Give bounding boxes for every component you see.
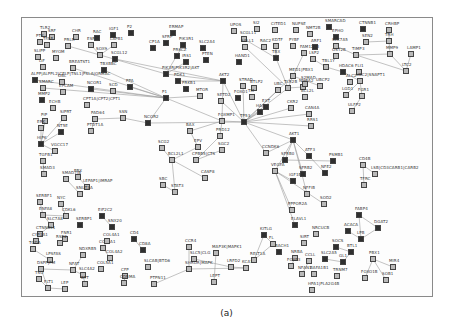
gene-node[interactable]: [317, 83, 323, 89]
gene-node[interactable]: [236, 59, 242, 65]
gene-node[interactable]: [197, 93, 203, 99]
gene-node[interactable]: [334, 273, 340, 279]
gene-node[interactable]: [202, 175, 208, 181]
gene-node[interactable]: [211, 279, 217, 285]
gene-node[interactable]: [290, 43, 296, 49]
gene-node[interactable]: [360, 26, 366, 32]
gene-node[interactable]: [306, 258, 312, 264]
gene-node[interactable]: [213, 250, 219, 256]
gene-node[interactable]: [45, 285, 51, 291]
gene-node[interactable]: [63, 176, 69, 182]
gene-node[interactable]: [408, 51, 414, 57]
gene-node[interactable]: [110, 88, 116, 94]
gene-node[interactable]: [38, 141, 44, 147]
gene-node[interactable]: [311, 271, 317, 277]
gene-node[interactable]: [302, 94, 308, 100]
gene-node[interactable]: [353, 52, 359, 58]
gene-node[interactable]: [272, 168, 278, 174]
gene-node[interactable]: [383, 277, 389, 283]
gene-node[interactable]: [218, 98, 224, 104]
gene-node[interactable]: [228, 264, 234, 270]
gene-node[interactable]: [220, 78, 226, 84]
gene-node[interactable]: [356, 212, 362, 218]
gene-node[interactable]: [32, 77, 38, 83]
gene-node[interactable]: [322, 170, 328, 176]
gene-node[interactable]: [145, 120, 151, 126]
gene-node[interactable]: [151, 281, 157, 287]
gene-node[interactable]: [77, 222, 83, 228]
gene-node[interactable]: [357, 78, 363, 84]
gene-node[interactable]: [231, 28, 237, 34]
gene-node[interactable]: [131, 236, 137, 242]
gene-node[interactable]: [309, 287, 315, 293]
gene-node[interactable]: [302, 81, 308, 87]
gene-node[interactable]: [58, 129, 64, 135]
gene-node[interactable]: [273, 55, 279, 61]
gene-node[interactable]: [375, 225, 381, 231]
gene-node[interactable]: [306, 153, 312, 159]
gene-node[interactable]: [243, 265, 249, 271]
gene-node[interactable]: [172, 189, 178, 195]
gene-node[interactable]: [163, 40, 169, 46]
gene-node[interactable]: [349, 108, 355, 114]
gene-node[interactable]: [359, 93, 365, 99]
gene-node[interactable]: [345, 228, 351, 234]
gene-node[interactable]: [40, 64, 46, 70]
gene-node[interactable]: [290, 137, 296, 143]
gene-node[interactable]: [370, 256, 376, 262]
gene-node[interactable]: [169, 157, 175, 163]
gene-node[interactable]: [363, 39, 369, 45]
gene-node[interactable]: [289, 207, 295, 213]
gene-node[interactable]: [362, 275, 368, 281]
gene-node[interactable]: [159, 145, 165, 151]
gene-node[interactable]: [293, 27, 299, 33]
gene-node[interactable]: [249, 94, 255, 100]
gene-node[interactable]: [299, 271, 305, 277]
gene-node[interactable]: [186, 266, 192, 272]
gene-node[interactable]: [128, 30, 134, 36]
gene-node[interactable]: [163, 71, 169, 77]
gene-node[interactable]: [217, 133, 223, 139]
gene-node[interactable]: [111, 42, 117, 48]
gene-node[interactable]: [140, 247, 146, 253]
gene-node[interactable]: [322, 256, 328, 262]
gene-node[interactable]: [88, 128, 94, 134]
gene-node[interactable]: [62, 286, 68, 292]
gene-node[interactable]: [30, 246, 36, 252]
gene-node[interactable]: [285, 85, 291, 91]
gene-node[interactable]: [219, 147, 225, 153]
gene-node[interactable]: [50, 105, 56, 111]
gene-node[interactable]: [240, 83, 246, 89]
gene-node[interactable]: [304, 191, 310, 197]
gene-node[interactable]: [261, 232, 267, 238]
gene-node[interactable]: [84, 102, 90, 108]
gene-node[interactable]: [372, 171, 378, 177]
gene-node[interactable]: [60, 89, 66, 95]
gene-node[interactable]: [241, 119, 247, 125]
gene-node[interactable]: [290, 178, 296, 184]
gene-node[interactable]: [263, 150, 269, 156]
gene-node[interactable]: [235, 95, 241, 101]
gene-node[interactable]: [88, 42, 94, 48]
gene-node[interactable]: [348, 249, 354, 255]
gene-node[interactable]: [301, 240, 307, 246]
gene-node[interactable]: [308, 123, 314, 129]
gene-node[interactable]: [40, 212, 46, 218]
gene-node[interactable]: [276, 249, 282, 255]
gene-node[interactable]: [127, 84, 133, 90]
gene-node[interactable]: [53, 55, 59, 61]
gene-node[interactable]: [61, 115, 67, 121]
gene-node[interactable]: [242, 44, 248, 50]
gene-node[interactable]: [347, 79, 353, 85]
gene-node[interactable]: [145, 264, 151, 270]
gene-node[interactable]: [97, 52, 103, 58]
gene-node[interactable]: [65, 43, 71, 49]
gene-node[interactable]: [288, 105, 294, 111]
gene-node[interactable]: [187, 128, 193, 134]
gene-node[interactable]: [307, 31, 313, 37]
gene-node[interactable]: [104, 238, 110, 244]
gene-node[interactable]: [387, 51, 393, 57]
gene-node[interactable]: [251, 257, 257, 263]
gene-node[interactable]: [275, 87, 281, 93]
gene-node[interactable]: [386, 38, 392, 44]
